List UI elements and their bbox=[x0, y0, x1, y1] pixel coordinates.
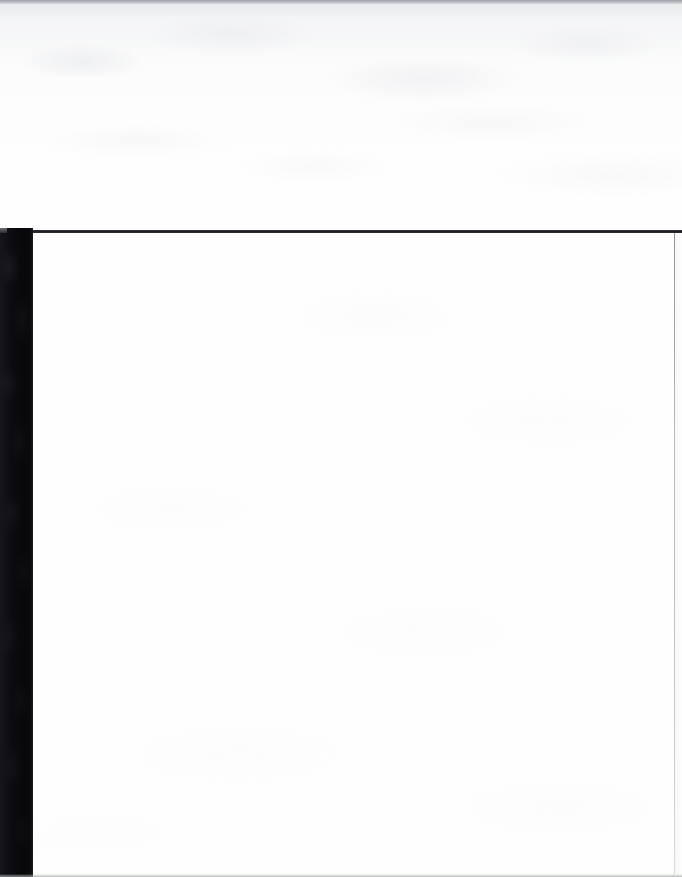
paper-background bbox=[0, 0, 682, 877]
scanned-page bbox=[0, 0, 682, 877]
